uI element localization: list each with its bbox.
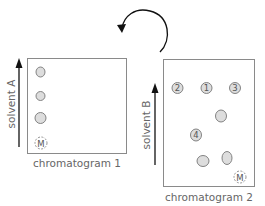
caption-chromatogram-2: chromatogram 2 <box>165 191 253 203</box>
solvent-a-label: solvent A <box>5 79 17 129</box>
chromatography-diagram: solvent A M chromatogram 1 solvent B 2 1… <box>0 0 265 206</box>
spot <box>222 152 232 165</box>
origin-label: M <box>236 173 243 183</box>
spot <box>36 67 45 77</box>
spot-4-label: 4 <box>193 130 198 140</box>
spot-1-label: 1 <box>204 83 209 93</box>
caption-chromatogram-1: chromatogram 1 <box>33 157 121 169</box>
spot-2-label: 2 <box>175 83 180 93</box>
solvent-b-label: solvent B <box>140 101 152 150</box>
rotation-arrow-icon <box>117 10 167 52</box>
spot-3-label: 3 <box>232 83 237 93</box>
spot <box>35 113 46 124</box>
chromatogram-1: solvent A M chromatogram 1 <box>5 58 127 169</box>
spot <box>36 92 45 101</box>
origin-label: M <box>37 139 44 149</box>
spot <box>197 156 209 167</box>
solvent-b-arrow-icon <box>152 83 159 165</box>
spot <box>216 110 227 122</box>
chromatogram-2: solvent B 2 1 3 4 M chromatogram 2 <box>140 60 255 204</box>
